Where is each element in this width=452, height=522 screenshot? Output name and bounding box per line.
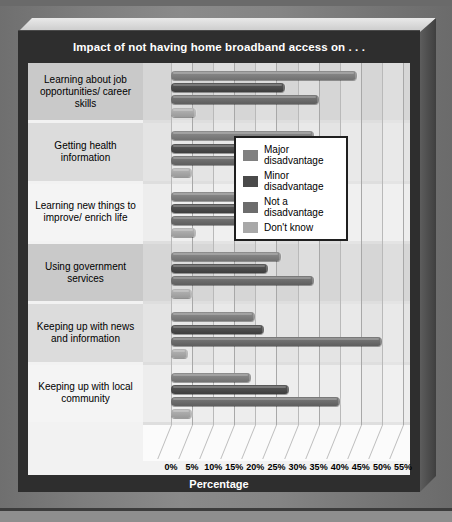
- bar-highlight: [173, 277, 311, 279]
- x-tick-10%: 10%: [204, 462, 222, 472]
- x-tick-40%: 40%: [331, 462, 349, 472]
- bar-highlight: [173, 374, 248, 376]
- floor-gridline-30%: [284, 425, 299, 459]
- gridline-25%: [276, 63, 277, 425]
- gridline-5%: [192, 63, 193, 425]
- legend-label: Minor disadvantage: [264, 170, 339, 192]
- floor-gridline-0%: [157, 425, 172, 459]
- grid-band: [382, 63, 403, 425]
- bar-highlight: [173, 265, 265, 267]
- x-tick-20%: 20%: [246, 462, 264, 472]
- bar-4-4: [171, 289, 192, 298]
- x-axis-title-label: Percentage: [189, 478, 248, 490]
- category-label-2: Getting health information: [28, 123, 143, 180]
- bar-cap: [186, 349, 189, 358]
- bar-highlight: [173, 313, 252, 315]
- bar-highlight: [173, 253, 278, 255]
- bar-highlight: [173, 338, 379, 340]
- bar-5-2: [171, 325, 264, 334]
- bar-6-1: [171, 373, 251, 382]
- floor-gridline-55%: [389, 425, 404, 459]
- bar-3-4: [171, 228, 196, 237]
- x-tick-15%: 15%: [225, 462, 243, 472]
- grid-band: [298, 63, 319, 425]
- gridline-55%: [403, 63, 404, 425]
- legend-swatch-icon: [243, 176, 258, 187]
- legend-label: Major disadvantage: [264, 144, 339, 166]
- bar-5-4: [171, 349, 188, 358]
- bar-cap: [262, 325, 265, 334]
- bar-1-3: [171, 95, 319, 104]
- legend-item-3: Not a disadvantage: [243, 196, 339, 218]
- bar-6-2: [171, 385, 289, 394]
- x-tick-45%: 45%: [352, 462, 370, 472]
- category-label-3: Learning new things to improve/ enrich l…: [28, 184, 143, 241]
- x-tick-0%: 0%: [164, 462, 177, 472]
- bar-5-1: [171, 312, 255, 321]
- x-tick-55%: 55%: [394, 462, 412, 472]
- bar-highlight: [173, 290, 189, 292]
- grid-band: [213, 63, 234, 425]
- gridline-15%: [234, 63, 235, 425]
- legend-swatch-icon: [243, 202, 258, 213]
- category-label-column: Learning about job opportunities/ career…: [28, 63, 143, 461]
- legend-label: Don't know: [264, 222, 313, 233]
- bar-highlight: [173, 229, 193, 231]
- bar-cap: [317, 95, 320, 104]
- bar-cap: [249, 373, 252, 382]
- category-label-6: Keeping up with local community: [28, 365, 143, 422]
- page-footer-strip: [0, 511, 452, 522]
- frame-right-bevel: [420, 18, 436, 492]
- x-tick-25%: 25%: [267, 462, 285, 472]
- grid-band: [255, 63, 276, 425]
- bar-2-4: [171, 168, 192, 177]
- bar-cap: [355, 71, 358, 80]
- chart-legend: Major disadvantageMinor disadvantageNot …: [234, 136, 348, 241]
- legend-item-1: Major disadvantage: [243, 144, 339, 166]
- legend-swatch-icon: [243, 150, 258, 161]
- bar-highlight: [173, 72, 354, 74]
- floor-gridline-20%: [242, 425, 257, 459]
- bar-1-1: [171, 71, 357, 80]
- floor-gridline-50%: [368, 425, 383, 459]
- gridline-45%: [361, 63, 362, 425]
- bar-highlight: [173, 84, 282, 86]
- bar-highlight: [173, 350, 185, 352]
- x-tick-30%: 30%: [289, 462, 307, 472]
- chart-title: Impact of not having home broadband acce…: [73, 41, 365, 53]
- bar-4-1: [171, 252, 281, 261]
- bar-cap: [190, 289, 193, 298]
- plot-area: [143, 63, 410, 461]
- bar-cap: [338, 397, 341, 406]
- floor-gridline-35%: [305, 425, 320, 459]
- chart-figure: Impact of not having home broadband acce…: [18, 18, 436, 492]
- bar-highlight: [173, 410, 189, 412]
- x-axis-tick-labels: 0%5%10%15%20%25%30%35%40%45%50%55%: [28, 461, 410, 475]
- grid-band: [171, 63, 192, 425]
- chart-title-band: Impact of not having home broadband acce…: [18, 31, 420, 63]
- bar-1-4: [171, 108, 196, 117]
- legend-swatch-icon: [243, 222, 258, 233]
- bar-4-2: [171, 264, 268, 273]
- bar-highlight: [173, 398, 337, 400]
- bar-highlight: [173, 386, 286, 388]
- legend-item-4: Don't know: [243, 222, 339, 233]
- x-tick-5%: 5%: [186, 462, 199, 472]
- chart-frame: Impact of not having home broadband acce…: [18, 30, 420, 492]
- bar-highlight: [173, 326, 261, 328]
- floor-gridline-15%: [221, 425, 236, 459]
- floor-gridline-45%: [347, 425, 362, 459]
- x-axis-title: Percentage: [18, 475, 420, 493]
- bar-highlight: [173, 96, 316, 98]
- floor-gridline-40%: [326, 425, 341, 459]
- plot-panel: Learning about job opportunities/ career…: [28, 63, 410, 461]
- plot-floor: [143, 425, 410, 461]
- bar-6-3: [171, 397, 340, 406]
- x-tick-50%: 50%: [373, 462, 391, 472]
- grid-band: [340, 63, 361, 425]
- bar-highlight: [173, 132, 311, 134]
- bar-6-4: [171, 409, 192, 418]
- bar-4-3: [171, 276, 314, 285]
- category-label-1: Learning about job opportunities/ career…: [28, 63, 143, 120]
- floor-gridline-5%: [178, 425, 193, 459]
